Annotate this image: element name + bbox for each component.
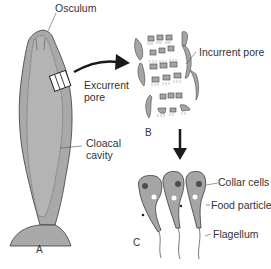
- panel-letter-b: B: [145, 127, 152, 138]
- panel-letter-a: A: [36, 244, 43, 255]
- label-incurrent-pore: Incurrent pore: [199, 46, 264, 58]
- label-cloacal-cavity-1: Cloacal: [86, 137, 121, 149]
- label-flagellum: Flagellum: [213, 228, 259, 240]
- label-food-particle: Food particle: [211, 199, 271, 211]
- arrow-to-panel-c-icon: [173, 129, 187, 160]
- flagella: [159, 228, 200, 259]
- arrow-to-panel-b-icon: [74, 54, 130, 72]
- label-cloacal-cavity-2: cavity: [86, 149, 113, 161]
- sponge-body: [10, 30, 72, 246]
- label-osculum: Osculum: [55, 2, 96, 14]
- label-excurrent-pore-2: pore: [84, 91, 105, 103]
- panel-letter-c: C: [133, 237, 140, 248]
- collar-cells: [138, 171, 205, 232]
- label-excurrent-pore-1: Excurrent: [84, 79, 129, 91]
- label-collar-cells: Collar cells: [218, 176, 269, 188]
- wall-section: [135, 31, 199, 118]
